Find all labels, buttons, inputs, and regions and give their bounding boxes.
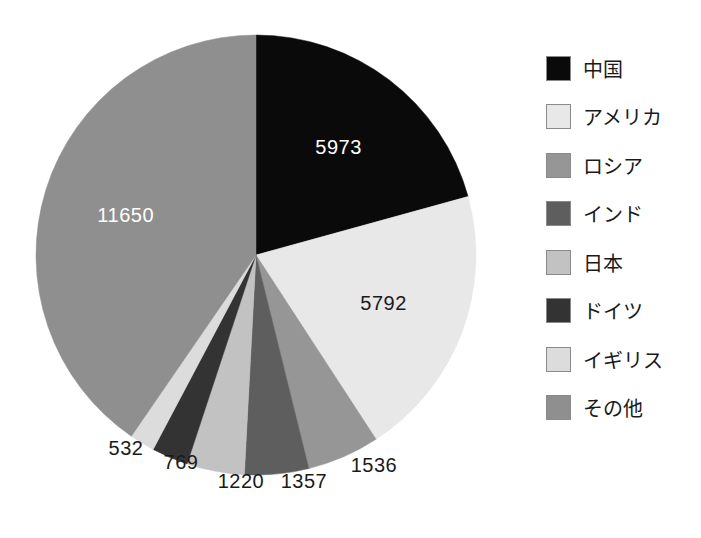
legend-item-label: イギリス [583, 345, 663, 374]
legend-item[interactable]: 日本 [546, 238, 696, 287]
legend-item[interactable]: 中国 [546, 44, 696, 93]
slice-value-label: 5973 [315, 135, 362, 158]
slice-value-label: 5792 [360, 292, 407, 315]
pie-svg [0, 0, 520, 538]
pie-plot-area: 5973579215361357122076953211650 [0, 0, 520, 538]
legend-item-label: ドイツ [583, 296, 643, 325]
legend-swatch-icon [546, 395, 571, 420]
legend-item-label: その他 [583, 393, 643, 422]
legend-item-label: 日本 [583, 248, 623, 277]
legend-item[interactable]: アメリカ [546, 93, 696, 142]
slice-value-label: 1357 [281, 470, 328, 493]
slice-value-label: 769 [164, 451, 199, 474]
legend-swatch-icon [546, 153, 571, 178]
legend-item[interactable]: ロシア [546, 141, 696, 190]
legend-swatch-icon [546, 201, 571, 226]
legend-item[interactable]: その他 [546, 384, 696, 433]
legend-item[interactable]: インド [546, 190, 696, 239]
legend-item-label: アメリカ [583, 102, 662, 131]
slice-value-label: 532 [109, 437, 144, 460]
legend-swatch-icon [546, 250, 571, 275]
slice-value-label: 11650 [97, 203, 154, 226]
legend-item[interactable]: イギリス [546, 335, 696, 384]
legend: 中国アメリカロシアインド日本ドイツイギリスその他 [546, 44, 696, 432]
legend-swatch-icon [546, 56, 571, 81]
slice-value-label: 1220 [218, 470, 265, 493]
legend-swatch-icon [546, 104, 571, 129]
pie-chart: 5973579215361357122076953211650 中国アメリカロシ… [0, 0, 701, 538]
legend-swatch-icon [546, 347, 571, 372]
legend-item-label: 中国 [583, 54, 623, 83]
legend-item-label: ロシア [583, 151, 643, 180]
legend-item-label: インド [583, 199, 643, 228]
legend-item[interactable]: ドイツ [546, 287, 696, 336]
legend-swatch-icon [546, 298, 571, 323]
slice-value-label: 1536 [351, 454, 398, 477]
